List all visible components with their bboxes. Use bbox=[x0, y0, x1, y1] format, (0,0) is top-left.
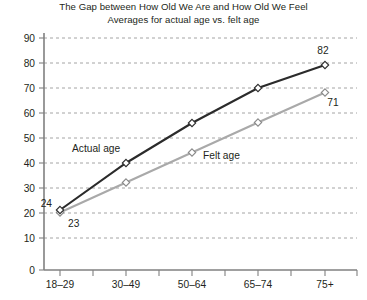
felt-age-marker-1 bbox=[122, 179, 129, 186]
actual-age-markers bbox=[56, 61, 328, 213]
x-tick-label-65-74: 65–74 bbox=[244, 279, 273, 290]
felt-age-marker-4 bbox=[321, 89, 328, 96]
x-axis-ticks bbox=[60, 270, 357, 276]
gridlines bbox=[44, 38, 357, 238]
x-tick-label-18-29: 18–29 bbox=[46, 279, 75, 290]
data-label-felt-first: 23 bbox=[68, 218, 80, 229]
felt-age-marker-2 bbox=[188, 149, 195, 156]
y-tick-label-40: 40 bbox=[24, 158, 36, 169]
series-label-felt-age: Felt age bbox=[203, 150, 240, 161]
y-tick-label-80: 80 bbox=[24, 58, 36, 69]
actual-age-marker-4 bbox=[321, 61, 328, 68]
x-axis-labels: 18–29 30–49 50–64 65–74 75+ bbox=[46, 279, 334, 290]
felt-age-marker-3 bbox=[254, 119, 261, 126]
y-tick-label-70: 70 bbox=[24, 83, 36, 94]
actual-age-marker-3 bbox=[254, 84, 261, 91]
data-label-actual-last: 82 bbox=[317, 45, 329, 56]
line-chart-plot: 90 80 70 60 50 40 30 20 10 0 18–29 bbox=[0, 0, 367, 300]
y-tick-label-30: 30 bbox=[24, 183, 36, 194]
y-tick-label-60: 60 bbox=[24, 108, 36, 119]
data-label-felt-last: 71 bbox=[327, 97, 339, 108]
y-tick-label-50: 50 bbox=[24, 133, 36, 144]
series-actual-age bbox=[56, 61, 328, 213]
chart-container: The Gap between How Old We Are and How O… bbox=[0, 0, 367, 300]
y-tick-label-10: 10 bbox=[24, 233, 36, 244]
y-tick-label-20: 20 bbox=[24, 208, 36, 219]
y-tick-label-90: 90 bbox=[24, 33, 36, 44]
y-tick-label-0: 0 bbox=[29, 265, 35, 276]
x-tick-label-75plus: 75+ bbox=[316, 279, 333, 290]
x-tick-label-50-64: 50–64 bbox=[178, 279, 207, 290]
series-label-actual-age: Actual age bbox=[72, 143, 120, 154]
y-axis-labels: 90 80 70 60 50 40 30 20 10 0 bbox=[24, 33, 36, 276]
x-tick-label-30-49: 30–49 bbox=[112, 279, 141, 290]
data-label-actual-first: 24 bbox=[41, 198, 53, 209]
